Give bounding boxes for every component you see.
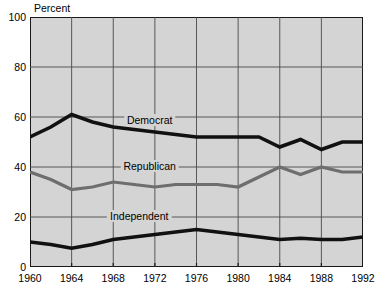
x-tick-label: 1976 bbox=[177, 272, 217, 284]
x-tick-label: 1992 bbox=[343, 272, 381, 284]
x-tick-label: 1960 bbox=[10, 272, 50, 284]
plot-area bbox=[30, 17, 363, 267]
y-axis-title: Percent bbox=[34, 2, 70, 14]
y-tick-label: 100 bbox=[2, 11, 26, 23]
chart-canvas bbox=[30, 17, 363, 267]
series-label-republican: Republican bbox=[120, 160, 179, 172]
x-tick-label: 1972 bbox=[135, 272, 175, 284]
y-tick-label: 20 bbox=[2, 211, 26, 223]
x-tick-label: 1968 bbox=[93, 272, 133, 284]
y-tick-label: 0 bbox=[2, 261, 26, 273]
x-tick-label: 1984 bbox=[260, 272, 300, 284]
chart-figure: Percent 020406080100 1960196419681972197… bbox=[0, 0, 381, 296]
y-tick-label: 80 bbox=[2, 61, 26, 73]
y-tick-label: 60 bbox=[2, 111, 26, 123]
series-label-democrat: Democrat bbox=[124, 114, 176, 126]
series-label-independent: Independent bbox=[107, 210, 171, 222]
y-tick-label: 40 bbox=[2, 161, 26, 173]
x-tick-label: 1980 bbox=[218, 272, 258, 284]
x-tick-label: 1964 bbox=[52, 272, 92, 284]
x-tick-label: 1988 bbox=[301, 272, 341, 284]
